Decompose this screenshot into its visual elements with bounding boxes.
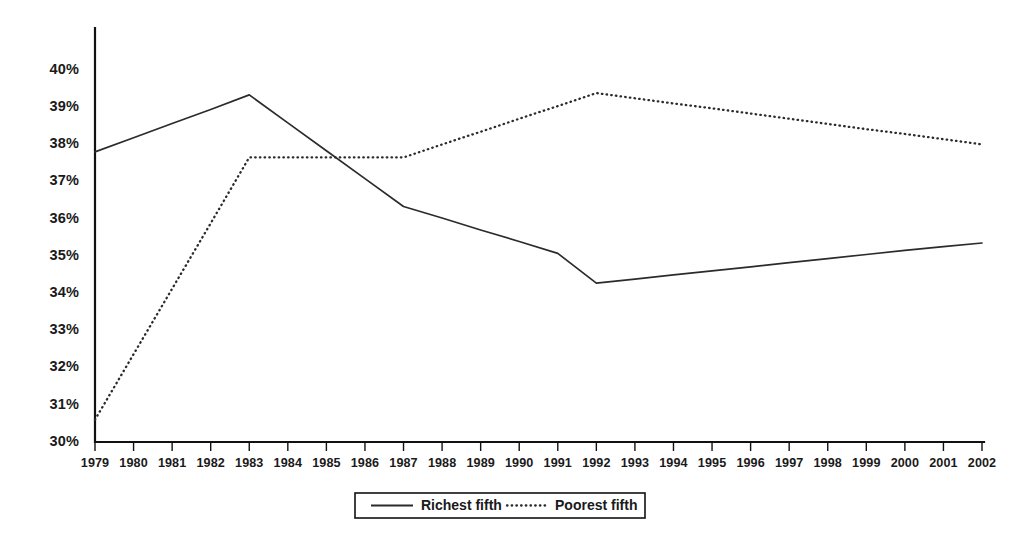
y-tick-label: 35% [49, 247, 79, 263]
x-tick-label: 1994 [659, 456, 687, 470]
x-tick-label: 1980 [119, 456, 147, 470]
x-tick-label: 1997 [775, 456, 803, 470]
x-tick-label: 1982 [196, 456, 224, 470]
x-tick-label: 1992 [582, 456, 610, 470]
chart-axes [95, 28, 984, 442]
x-tick-label: 1988 [428, 456, 456, 470]
y-tick-label: 36% [49, 210, 79, 226]
y-tick-label: 32% [49, 358, 79, 374]
x-tick-label: 1986 [351, 456, 379, 470]
x-tick-label: 1989 [466, 456, 494, 470]
x-tick-label: 2001 [929, 456, 957, 470]
x-tick-label: 1998 [814, 456, 842, 470]
x-tick-label: 1996 [736, 456, 764, 470]
x-tick-label: 1991 [544, 456, 572, 470]
x-tick-label: 2000 [891, 456, 919, 470]
y-tick-label: 30% [49, 433, 79, 449]
y-tick-label: 37% [49, 172, 79, 188]
x-tick-label: 1987 [389, 456, 417, 470]
x-tick-label: 1979 [81, 456, 109, 470]
x-tick-label: 1981 [158, 456, 186, 470]
x-axis-tick-labels: 1979198019811982198319841985198619871988… [81, 456, 996, 470]
legend-label-richest-fifth: Richest fifth [421, 497, 502, 513]
series-line-richest-fifth [95, 95, 982, 283]
y-tick-label: 39% [49, 98, 79, 114]
x-tick-label: 1995 [698, 456, 726, 470]
line-chart: 30%31%32%33%34%35%36%37%38%39%40% 197919… [0, 0, 1020, 549]
y-tick-label: 34% [49, 284, 79, 300]
x-tick-label: 1983 [235, 456, 263, 470]
y-tick-label: 38% [49, 135, 79, 151]
y-tick-label: 31% [49, 396, 79, 412]
x-tick-label: 1985 [312, 456, 340, 470]
x-tick-label: 2002 [968, 456, 996, 470]
chart-legend: Richest fifth Poorest fifth [355, 493, 645, 518]
y-tick-label: 40% [49, 61, 79, 77]
y-tick-label: 33% [49, 321, 79, 337]
x-tick-label: 1990 [505, 456, 533, 470]
chart-container: 30%31%32%33%34%35%36%37%38%39%40% 197919… [0, 0, 1020, 549]
x-axis-tick-marks [95, 442, 982, 451]
x-tick-label: 1993 [621, 456, 649, 470]
legend-label-poorest-fifth: Poorest fifth [555, 497, 637, 513]
y-axis-tick-labels: 30%31%32%33%34%35%36%37%38%39%40% [49, 61, 79, 449]
x-tick-label: 1999 [852, 456, 880, 470]
x-tick-label: 1984 [274, 456, 302, 470]
